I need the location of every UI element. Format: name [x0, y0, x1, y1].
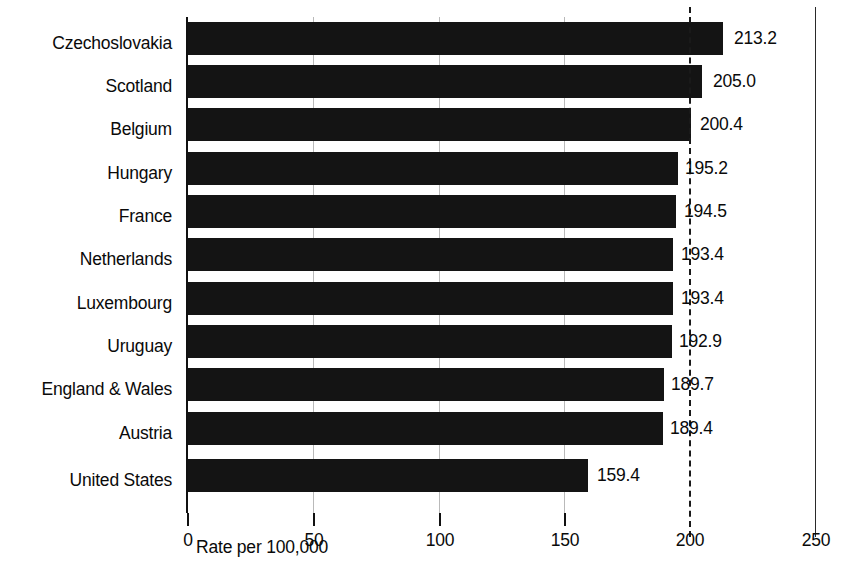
- category-label-luxembourg: Luxembourg: [0, 295, 172, 313]
- value-label-england-wales: 189.7: [671, 376, 714, 394]
- category-label-austria: Austria: [0, 425, 172, 443]
- category-label-united-states: United States: [0, 472, 172, 490]
- plot-area: 213.2 205.0 200.4 195.2 194.5 193.4 193.…: [188, 17, 815, 513]
- x-tick-label-250: 250: [802, 532, 831, 550]
- bar-scotland: [188, 65, 702, 98]
- value-label-united-states: 159.4: [597, 467, 640, 485]
- bar-hungary: [188, 152, 678, 185]
- value-label-czechoslovakia: 213.2: [734, 30, 777, 48]
- bar-france: [188, 195, 676, 228]
- bar-chart: Czechoslovakia Scotland Belgium Hungary …: [0, 0, 851, 575]
- value-label-hungary: 195.2: [685, 160, 728, 178]
- x-tick-label-200: 200: [676, 532, 705, 550]
- bar-uruguay: [188, 325, 672, 358]
- category-label-scotland: Scotland: [0, 78, 172, 96]
- value-label-luxembourg: 193.4: [681, 290, 724, 308]
- x-tick-50: [313, 513, 315, 526]
- category-label-netherlands: Netherlands: [0, 251, 172, 269]
- x-tick-150: [564, 513, 566, 526]
- category-label-france: France: [0, 208, 172, 226]
- value-label-france: 194.5: [684, 203, 727, 221]
- category-label-england-wales: England & Wales: [0, 381, 172, 399]
- value-label-belgium: 200.4: [700, 116, 743, 134]
- value-label-netherlands: 193.4: [681, 246, 724, 264]
- x-tick-label-0: 0: [183, 532, 193, 550]
- value-label-scotland: 205.0: [713, 73, 756, 91]
- x-tick-0: [187, 513, 189, 526]
- category-label-belgium: Belgium: [0, 121, 172, 139]
- reference-line-250: [815, 7, 816, 537]
- x-tick-100: [439, 513, 441, 526]
- category-axis-labels: Czechoslovakia Scotland Belgium Hungary …: [0, 0, 172, 515]
- bar-austria: [188, 412, 663, 445]
- value-label-austria: 189.4: [670, 420, 713, 438]
- x-axis-title: Rate per 100,000: [196, 539, 328, 557]
- category-label-czechoslovakia: Czechoslovakia: [0, 35, 172, 53]
- value-label-uruguay: 192.9: [679, 333, 722, 351]
- x-tick-label-100: 100: [426, 532, 455, 550]
- reference-line-200: [689, 7, 691, 537]
- bar-luxembourg: [188, 282, 673, 315]
- bar-belgium: [188, 108, 691, 141]
- category-label-uruguay: Uruguay: [0, 338, 172, 356]
- bar-united-states: [188, 459, 588, 492]
- bar-england-wales: [188, 368, 664, 401]
- bar-czechoslovakia: [188, 22, 723, 55]
- category-label-hungary: Hungary: [0, 165, 172, 183]
- bar-netherlands: [188, 238, 673, 271]
- x-tick-label-150: 150: [551, 532, 580, 550]
